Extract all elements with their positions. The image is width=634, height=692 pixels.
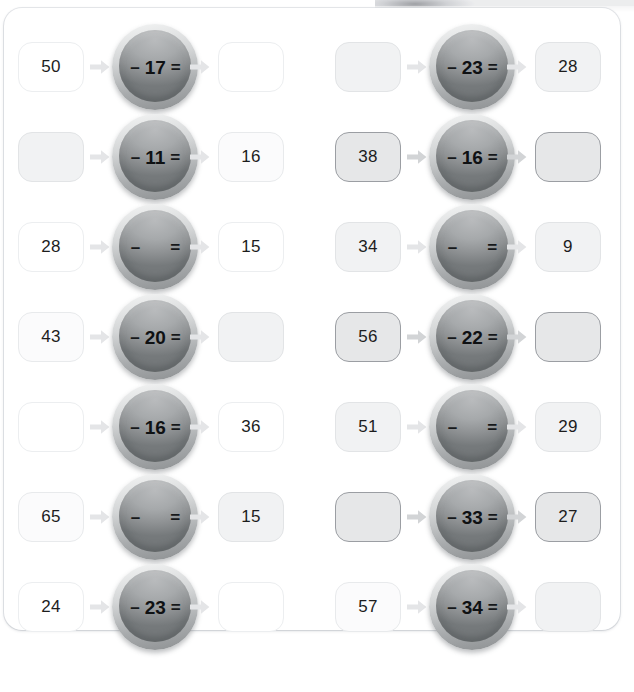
operand-value[interactable]: 23	[145, 597, 166, 619]
operation-circle[interactable]: –20=	[112, 294, 198, 380]
equals-sign: =	[488, 328, 498, 348]
output-box[interactable]: 27	[535, 492, 601, 542]
input-box[interactable]: 50	[18, 42, 84, 92]
input-box[interactable]	[335, 42, 401, 92]
problem-left: 28–=15	[0, 202, 317, 292]
operation-circle[interactable]: –=	[112, 204, 198, 290]
equals-sign: =	[488, 58, 498, 78]
operation-circle[interactable]: –34=	[429, 564, 515, 650]
equals-sign: =	[488, 508, 498, 528]
problem-row: 43–20=56–22=	[0, 292, 634, 382]
input-box[interactable]	[18, 132, 84, 182]
operand-value[interactable]: 33	[462, 507, 483, 529]
operation-label: –16=	[429, 114, 515, 200]
output-box[interactable]: 15	[218, 222, 284, 272]
operation-circle[interactable]: –17=	[112, 24, 198, 110]
minus-sign: –	[130, 58, 139, 78]
operation-label: –=	[112, 474, 198, 560]
operation-label: –11=	[112, 114, 198, 200]
input-box[interactable]: 57	[335, 582, 401, 632]
operand-value[interactable]: 16	[145, 417, 166, 439]
equals-sign: =	[170, 148, 180, 168]
operation-circle[interactable]: –=	[429, 384, 515, 470]
problem-row: –11=1638–16=	[0, 112, 634, 202]
right-arrow-icon	[90, 329, 110, 345]
right-arrow-icon	[407, 419, 427, 435]
problem-left: 24–23=	[0, 562, 317, 652]
problem-left: –11=16	[0, 112, 317, 202]
operand-value[interactable]: 23	[462, 57, 483, 79]
operand-value[interactable]: 20	[145, 327, 166, 349]
input-box[interactable]: 56	[335, 312, 401, 362]
minus-sign: –	[448, 238, 457, 258]
problem-right: 57–34=	[317, 562, 634, 652]
problem-right: –33=27	[317, 472, 634, 562]
problem-row: –16=3651–=29	[0, 382, 634, 472]
right-arrow-icon	[190, 149, 210, 165]
minus-sign: –	[130, 328, 139, 348]
operand-value[interactable]: 16	[462, 147, 483, 169]
input-box[interactable]: 43	[18, 312, 84, 362]
operation-circle[interactable]: –16=	[429, 114, 515, 200]
operand-value[interactable]: 22	[462, 327, 483, 349]
operation-label: –33=	[429, 474, 515, 560]
operation-circle[interactable]: –33=	[429, 474, 515, 560]
output-box[interactable]: 28	[535, 42, 601, 92]
operation-label: –34=	[429, 564, 515, 650]
operation-circle[interactable]: –22=	[429, 294, 515, 380]
operand-value[interactable]: 11	[145, 147, 165, 169]
minus-sign: –	[447, 58, 456, 78]
operation-circle[interactable]: –16=	[112, 384, 198, 470]
right-arrow-icon	[90, 239, 110, 255]
output-box[interactable]: 9	[535, 222, 601, 272]
operand-value[interactable]: 17	[145, 57, 166, 79]
problem-right: 51–=29	[317, 382, 634, 472]
equals-sign: =	[487, 418, 497, 438]
output-box[interactable]	[218, 582, 284, 632]
output-box[interactable]	[218, 42, 284, 92]
input-box[interactable]	[18, 402, 84, 452]
output-box[interactable]	[535, 132, 601, 182]
minus-sign: –	[447, 148, 456, 168]
output-box[interactable]: 36	[218, 402, 284, 452]
equals-sign: =	[171, 58, 181, 78]
input-box[interactable]: 51	[335, 402, 401, 452]
right-arrow-icon	[407, 59, 427, 75]
output-box[interactable]: 16	[218, 132, 284, 182]
equals-sign: =	[488, 148, 498, 168]
problem-right: 34–=9	[317, 202, 634, 292]
operation-circle[interactable]: –=	[112, 474, 198, 560]
right-arrow-icon	[507, 599, 527, 615]
equals-sign: =	[170, 508, 180, 528]
output-box[interactable]	[218, 312, 284, 362]
minus-sign: –	[131, 508, 140, 528]
right-arrow-icon	[407, 599, 427, 615]
input-box[interactable]: 38	[335, 132, 401, 182]
right-arrow-icon	[90, 509, 110, 525]
minus-sign: –	[447, 598, 456, 618]
input-box[interactable]: 24	[18, 582, 84, 632]
right-arrow-icon	[507, 509, 527, 525]
operation-label: –23=	[429, 24, 515, 110]
input-box[interactable]: 65	[18, 492, 84, 542]
operation-circle[interactable]: –11=	[112, 114, 198, 200]
output-box[interactable]: 15	[218, 492, 284, 542]
operation-circle[interactable]: –23=	[112, 564, 198, 650]
minus-sign: –	[131, 148, 140, 168]
output-box[interactable]	[535, 312, 601, 362]
equals-sign: =	[170, 238, 180, 258]
operation-circle[interactable]: –=	[429, 204, 515, 290]
output-box[interactable]: 29	[535, 402, 601, 452]
input-box[interactable]: 28	[18, 222, 84, 272]
operand-value[interactable]: 34	[462, 597, 483, 619]
right-arrow-icon	[507, 239, 527, 255]
problem-row: 28–=1534–=9	[0, 202, 634, 292]
output-box[interactable]	[535, 582, 601, 632]
operation-label: –22=	[429, 294, 515, 380]
operation-circle[interactable]: –23=	[429, 24, 515, 110]
input-box[interactable]: 34	[335, 222, 401, 272]
minus-sign: –	[130, 418, 139, 438]
operation-label: –20=	[112, 294, 198, 380]
input-box[interactable]	[335, 492, 401, 542]
equals-sign: =	[171, 418, 181, 438]
